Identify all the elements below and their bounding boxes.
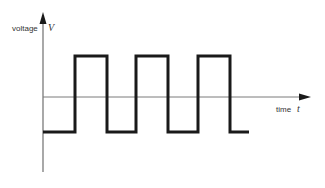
y-axis-symbol: V bbox=[48, 22, 56, 33]
square-wave-diagram: voltage V time t bbox=[0, 0, 325, 188]
x-axis-symbol: t bbox=[297, 103, 300, 114]
x-axis-label: time bbox=[276, 105, 292, 114]
y-axis-arrow-icon bbox=[40, 12, 47, 24]
square-wave-trace bbox=[43, 56, 249, 132]
y-axis-label: voltage bbox=[12, 24, 38, 33]
x-axis bbox=[43, 94, 311, 101]
x-axis-arrow-icon bbox=[299, 94, 311, 101]
y-axis bbox=[40, 12, 47, 172]
